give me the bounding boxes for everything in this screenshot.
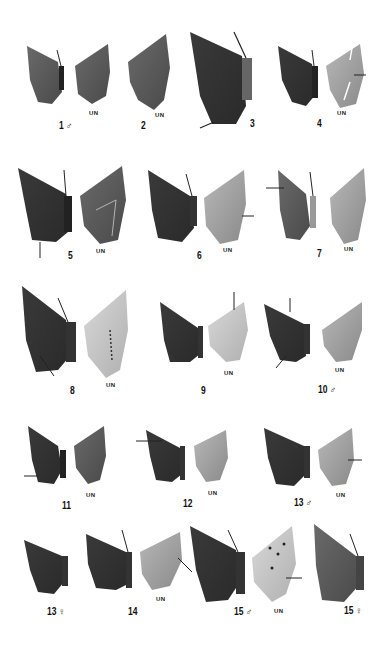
plate-illustrations — [0, 0, 386, 655]
specimen-15-male-upperside — [190, 526, 245, 602]
specimen-13-female-upperside — [24, 540, 68, 594]
underside-label-11: UN — [86, 492, 96, 498]
underside-label-7: UN — [344, 246, 354, 252]
figure-label-15-male: 15 ♂ — [234, 606, 252, 617]
figure-label-14: 14 — [128, 606, 137, 617]
specimen-11-upperside — [24, 426, 66, 484]
figure-label-5: 5 — [68, 250, 73, 261]
specimen-10-upperside — [264, 298, 310, 368]
specimen-4-underside — [326, 44, 366, 108]
figure-label-11: 11 — [62, 500, 71, 511]
underside-label-5: UN — [96, 248, 106, 254]
specimen-5-underside — [80, 166, 126, 244]
specimen-6-upperside — [148, 170, 197, 242]
underside-label-1: UN — [89, 110, 99, 116]
specimen-12-upperside — [136, 430, 185, 482]
specimen-11-underside — [74, 426, 106, 484]
underside-label-6: UN — [223, 247, 233, 253]
butterfly-plate: 1 ♂ 2 3 4 5 6 7 8 9 10 ♂ 11 12 13 ♂ 13 ♀… — [0, 0, 386, 655]
underside-label-13-male: UN — [336, 492, 346, 498]
specimen-8-underside — [84, 290, 128, 378]
figure-label-7: 7 — [317, 248, 322, 259]
figure-label-4: 4 — [317, 118, 322, 129]
specimen-10-underside — [322, 302, 362, 362]
underside-label-15-male: UN — [274, 608, 284, 614]
specimen-13-male-upperside — [264, 428, 310, 486]
specimen-7-underside — [330, 168, 366, 244]
underside-label-2: UN — [155, 112, 165, 118]
underside-label-8: UN — [106, 382, 116, 388]
specimen-15-male-underside — [252, 526, 302, 602]
specimen-14-upperside — [86, 530, 132, 590]
specimen-1-upperside — [27, 46, 64, 104]
figure-label-1: 1 ♂ — [59, 120, 72, 131]
specimen-7-upperside — [266, 170, 316, 240]
underside-label-12: UN — [208, 490, 218, 496]
specimen-9-underside — [208, 292, 248, 362]
specimen-4-upperside — [278, 46, 318, 106]
underside-label-9: UN — [224, 370, 234, 376]
underside-label-4: UN — [337, 110, 347, 116]
figure-label-10: 10 ♂ — [318, 384, 336, 395]
underside-label-14: UN — [156, 596, 166, 602]
figure-label-15-female: 15 ♀ — [344, 605, 362, 616]
specimen-1-underside — [75, 44, 110, 104]
figure-label-13-male: 13 ♂ — [294, 497, 312, 508]
figure-label-8: 8 — [70, 385, 75, 396]
figure-label-9: 9 — [201, 385, 206, 396]
figure-label-13-female: 13 ♀ — [47, 606, 65, 617]
specimen-9-upperside — [160, 302, 203, 362]
specimen-13-male-underside — [318, 428, 362, 486]
figure-label-2: 2 — [141, 120, 146, 131]
figure-label-12: 12 — [183, 498, 192, 509]
specimen-3-upperside — [190, 32, 252, 128]
specimen-5-upperside — [18, 168, 72, 258]
specimen-12-underside — [194, 430, 228, 482]
underside-label-10: UN — [335, 367, 345, 373]
specimen-2-underside — [128, 34, 170, 110]
specimen-14-underside — [140, 532, 192, 590]
specimen-6-underside — [204, 170, 254, 244]
specimen-8-upperside — [22, 286, 76, 376]
figure-label-3: 3 — [250, 118, 255, 129]
figure-label-6: 6 — [197, 250, 202, 261]
specimen-15-female-upperside — [314, 524, 364, 602]
